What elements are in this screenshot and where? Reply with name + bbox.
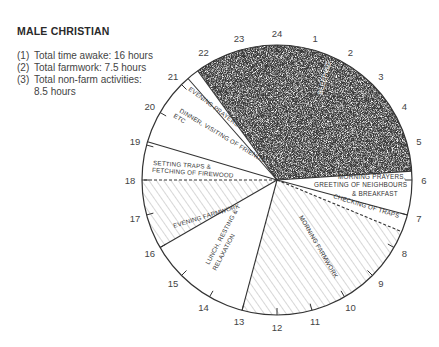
hour-label: 20 xyxy=(144,101,155,112)
hour-label: 21 xyxy=(168,71,179,82)
hour-label: 8 xyxy=(402,248,407,259)
hour-label: 6 xyxy=(421,175,426,186)
hour-label: 24 xyxy=(272,28,283,39)
hour-label: 2 xyxy=(348,47,353,58)
hour-label: 23 xyxy=(234,33,245,44)
hour-label: 17 xyxy=(130,213,141,224)
hour-label: 16 xyxy=(144,248,155,259)
hour-label: 13 xyxy=(234,316,245,327)
hour-label: 5 xyxy=(416,136,421,147)
hour-label: 7 xyxy=(416,213,421,224)
hour-label: 22 xyxy=(198,47,209,58)
hour-label: 18 xyxy=(125,175,136,186)
daily-activity-clock-diagram: 241234567891011121314151617181920212223 … xyxy=(0,0,439,347)
hour-label: 15 xyxy=(168,278,179,289)
label-morning-prayers-2: GREETING OF NEIGHBOURS xyxy=(314,181,407,188)
hour-label: 1 xyxy=(312,33,317,44)
label-morning-prayers-1: MORNING PRAYERS, xyxy=(338,173,406,180)
hour-label: 4 xyxy=(402,101,407,112)
label-morning-prayers-3: & BREAKFAST xyxy=(352,190,398,197)
hour-label: 11 xyxy=(310,316,320,327)
hour-label: 10 xyxy=(345,302,356,313)
hour-label: 14 xyxy=(198,302,209,313)
hour-label: 12 xyxy=(272,322,283,333)
hour-label: 3 xyxy=(378,71,383,82)
hour-label: 19 xyxy=(130,136,141,147)
hour-label: 9 xyxy=(378,278,383,289)
